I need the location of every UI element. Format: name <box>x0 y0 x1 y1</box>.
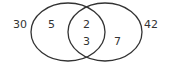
right-outside-label: 42 <box>144 18 158 31</box>
intersection-top-value: 2 <box>83 18 90 31</box>
venn-diagram: 30 42 5 2 3 7 <box>0 0 169 63</box>
left-only-value: 5 <box>48 18 55 31</box>
intersection-bottom-value: 3 <box>83 35 90 48</box>
right-only-value: 7 <box>114 35 121 48</box>
left-outside-label: 30 <box>13 18 27 31</box>
venn-svg: 30 42 5 2 3 7 <box>0 0 169 63</box>
